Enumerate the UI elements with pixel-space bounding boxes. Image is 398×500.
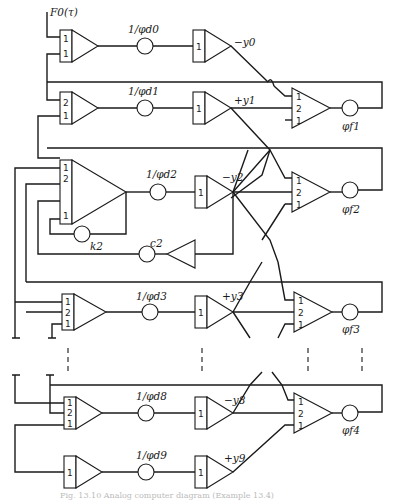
row-0: 1 1 1/φd0 1 −y0 [47, 23, 292, 96]
gain-label: 1 [298, 421, 304, 431]
gain-label: 1 [298, 320, 304, 330]
gain-label: 1 [296, 200, 302, 210]
gain-label: 1 [196, 104, 202, 114]
gain-label: 1 [198, 409, 204, 419]
inverter-triangle [167, 240, 195, 268]
gain-label: 2 [63, 98, 69, 108]
amplifier-triangle [72, 92, 98, 124]
analog-computer-diagram: F0(τ) 1 1 1/φd0 1 −y0 2 1 1/φd1 1 +y1 [0, 0, 398, 500]
output-label: +y1 [234, 94, 255, 106]
amplifier-triangle [76, 456, 102, 488]
gain-label: 2 [65, 308, 71, 318]
gain-label: 1 [63, 49, 69, 59]
output-amp-3: 1 2 1 φf3 [278, 262, 360, 338]
potentiometer-circle [142, 304, 158, 320]
output-amp-label: φf1 [342, 120, 360, 132]
output-amp-1: 1 2 1 φf1 [285, 88, 360, 132]
input-label: F0(τ) [49, 6, 78, 18]
amplifier-triangle [72, 30, 98, 62]
pot-label: 1/φd9 [136, 449, 167, 461]
gain-label: 1 [198, 308, 204, 318]
output-label: +y9 [224, 452, 246, 464]
gain-label: 1 [67, 419, 73, 429]
row-9: 1 1/φd9 1 +y9 [64, 425, 294, 488]
amplifier-triangle [205, 30, 231, 62]
gain-label: 1 [65, 319, 71, 329]
amplifier-triangle [76, 397, 102, 429]
gain-label: 1 [198, 188, 204, 198]
row-3: 1 2 1 1/φd3 1 +y3 [12, 262, 294, 338]
gain-label: 1 [298, 296, 304, 306]
gain-label: 1 [296, 92, 302, 102]
potentiometer-circle [138, 464, 154, 480]
potentiometer-circle [137, 100, 153, 116]
potentiometer-circle [138, 405, 154, 421]
row-2: 1 2 1 1/φd2 1 −y2 k2 c2 [15, 150, 292, 302]
output-label: −y0 [234, 36, 256, 48]
diagram-canvas: F0(τ) 1 1 1/φd0 1 −y0 2 1 1/φd1 1 +y1 [0, 0, 398, 500]
output-potentiometer [342, 182, 358, 198]
gain-label: 1 [63, 163, 69, 173]
gain-label: 2 [298, 308, 304, 318]
pot-label: 1/φd8 [136, 390, 167, 402]
output-amp-label: φf3 [342, 323, 360, 335]
gain-label: 2 [296, 104, 302, 114]
gain-label: 1 [63, 34, 69, 44]
gain-label: 1 [67, 468, 73, 478]
output-amp-4: 1 2 1 φf4 [294, 393, 360, 436]
pot-label: 1/φd0 [128, 23, 159, 35]
pot-label: 1/φd1 [128, 85, 159, 97]
gain-label: 1 [65, 297, 71, 307]
gain-label: 1 [63, 211, 69, 221]
pot-label-k2: k2 [90, 240, 103, 252]
pot-label: 1/φd2 [146, 168, 177, 180]
potentiometer-circle [137, 38, 153, 54]
gain-label: 2 [298, 409, 304, 419]
gain-label: 2 [296, 188, 302, 198]
output-potentiometer [342, 100, 358, 116]
omitted-rows-indicator [68, 348, 362, 372]
output-label: −y8 [224, 394, 246, 406]
output-potentiometer [342, 405, 358, 421]
gain-label: 1 [298, 397, 304, 407]
amplifier-triangle [205, 92, 231, 124]
gain-label: 2 [67, 408, 73, 418]
gain-label: 1 [198, 468, 204, 478]
gain-label: 1 [296, 116, 302, 126]
gain-label: 1 [196, 42, 202, 52]
gain-label: 2 [63, 174, 69, 184]
output-amp-label: φf4 [342, 424, 360, 436]
pot-label-c2: c2 [150, 237, 163, 249]
potentiometer-k2 [74, 226, 90, 242]
gain-label: 1 [296, 176, 302, 186]
output-amp-2: 1 2 1 φf2 [262, 150, 360, 240]
output-potentiometer [342, 304, 358, 320]
amplifier-triangle [74, 294, 106, 330]
pot-label: 1/φd3 [136, 290, 167, 302]
amplifier-triangle [72, 160, 126, 224]
output-amp-label: φf2 [342, 203, 360, 215]
figure-caption: Fig. 13.10 Analog computer diagram (Exam… [60, 491, 274, 500]
gain-label: 1 [67, 398, 73, 408]
gain-label: 1 [63, 111, 69, 121]
potentiometer-circle [150, 184, 166, 200]
